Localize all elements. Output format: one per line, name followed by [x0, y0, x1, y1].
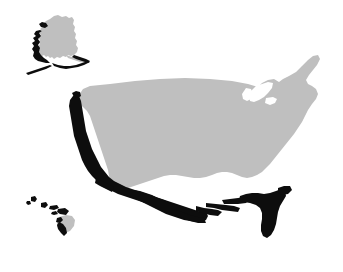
map-figure: United States coastal highlight map Styl…	[0, 0, 343, 272]
united-states-map	[0, 0, 343, 272]
